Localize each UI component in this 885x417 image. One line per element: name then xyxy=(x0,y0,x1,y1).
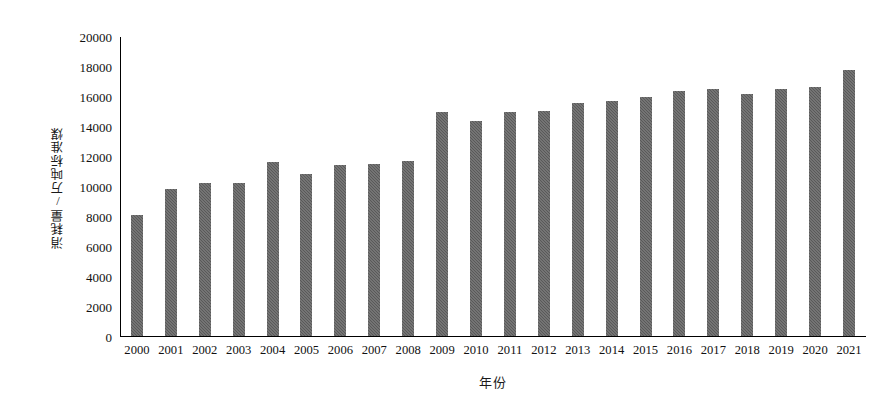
bar[interactable] xyxy=(809,87,821,336)
y-axis-tick-label: 18000 xyxy=(80,61,113,74)
x-axis-tick-label: 2004 xyxy=(256,340,290,362)
bar-slot xyxy=(290,37,324,336)
bar[interactable] xyxy=(640,97,652,336)
bar-chart-figure: 消耗量/万吨标准煤 020004000600080001000012000140… xyxy=(0,0,885,417)
x-axis-tick-label: 2002 xyxy=(188,340,222,362)
x-axis-tick-label: 2013 xyxy=(561,340,595,362)
x-axis-tick-label: 2006 xyxy=(323,340,357,362)
y-axis-tick-label: 12000 xyxy=(80,151,113,164)
x-axis-tick-label: 2009 xyxy=(425,340,459,362)
y-axis-tick-label: 14000 xyxy=(80,121,113,134)
bar[interactable] xyxy=(165,189,177,335)
bar-slot xyxy=(798,37,832,336)
bar[interactable] xyxy=(843,70,855,336)
bar-series xyxy=(120,37,866,336)
bar[interactable] xyxy=(334,165,346,335)
bar-slot xyxy=(663,37,697,336)
bar[interactable] xyxy=(233,183,245,335)
bar-slot xyxy=(595,37,629,336)
bar[interactable] xyxy=(606,101,618,335)
x-axis-title: 年份 xyxy=(120,372,866,391)
bar[interactable] xyxy=(131,215,143,336)
bar[interactable] xyxy=(538,111,550,336)
bar[interactable] xyxy=(300,174,312,335)
x-axis-tick-labels: 2000200120022003200420052006200720082009… xyxy=(120,340,866,362)
x-axis-tick-label: 2016 xyxy=(663,340,697,362)
bar-slot xyxy=(696,37,730,336)
bar-slot xyxy=(188,37,222,336)
bar-slot xyxy=(323,37,357,336)
bar-slot xyxy=(561,37,595,336)
y-axis-tick-label: 2000 xyxy=(86,301,112,314)
y-axis-tick-labels: 0200040006000800010000120001400016000180… xyxy=(62,37,116,337)
bar[interactable] xyxy=(775,89,787,336)
bar-slot xyxy=(493,37,527,336)
x-axis-tick-label: 2010 xyxy=(459,340,493,362)
x-axis-tick-label: 2001 xyxy=(154,340,188,362)
bar-slot xyxy=(764,37,798,336)
bar-slot xyxy=(391,37,425,336)
x-axis-tick-label: 2015 xyxy=(629,340,663,362)
bar-slot xyxy=(425,37,459,336)
bar-slot xyxy=(459,37,493,336)
plot-area xyxy=(120,37,866,337)
bar[interactable] xyxy=(267,162,279,335)
bar-slot xyxy=(120,37,154,336)
bar[interactable] xyxy=(741,94,753,336)
bar-slot xyxy=(357,37,391,336)
x-axis-tick-label: 2017 xyxy=(696,340,730,362)
x-axis-tick-label: 2007 xyxy=(357,340,391,362)
y-axis-tick-label: 8000 xyxy=(86,211,112,224)
x-axis-tick-label: 2021 xyxy=(832,340,866,362)
bar[interactable] xyxy=(707,89,719,336)
bar-slot xyxy=(832,37,866,336)
y-axis-tick-label: 20000 xyxy=(80,31,113,44)
bar[interactable] xyxy=(199,183,211,335)
bar[interactable] xyxy=(504,112,516,335)
x-axis-tick-label: 2005 xyxy=(290,340,324,362)
x-axis-tick-label: 2018 xyxy=(730,340,764,362)
x-axis-line xyxy=(120,336,866,337)
x-axis-tick-label: 2011 xyxy=(493,340,527,362)
bar-slot xyxy=(629,37,663,336)
bar-slot xyxy=(256,37,290,336)
bar-slot xyxy=(730,37,764,336)
y-axis-tick-label: 4000 xyxy=(86,271,112,284)
y-axis-tick-label: 16000 xyxy=(80,91,113,104)
bar-slot xyxy=(154,37,188,336)
x-axis-tick-label: 2020 xyxy=(798,340,832,362)
bar[interactable] xyxy=(673,91,685,336)
bar[interactable] xyxy=(470,121,482,336)
x-axis-tick-label: 2012 xyxy=(527,340,561,362)
y-axis-tick-label: 0 xyxy=(106,331,113,344)
x-axis-tick-label: 2008 xyxy=(391,340,425,362)
bar-slot xyxy=(527,37,561,336)
bar[interactable] xyxy=(368,164,380,336)
y-axis-tick-label: 10000 xyxy=(80,181,113,194)
x-axis-tick-label: 2003 xyxy=(222,340,256,362)
x-axis-tick-label: 2000 xyxy=(120,340,154,362)
bar[interactable] xyxy=(436,112,448,335)
bar[interactable] xyxy=(402,161,414,336)
bar-slot xyxy=(222,37,256,336)
x-axis-tick-label: 2014 xyxy=(595,340,629,362)
bar[interactable] xyxy=(572,103,584,336)
y-axis-tick-label: 6000 xyxy=(86,241,112,254)
x-axis-tick-label: 2019 xyxy=(764,340,798,362)
